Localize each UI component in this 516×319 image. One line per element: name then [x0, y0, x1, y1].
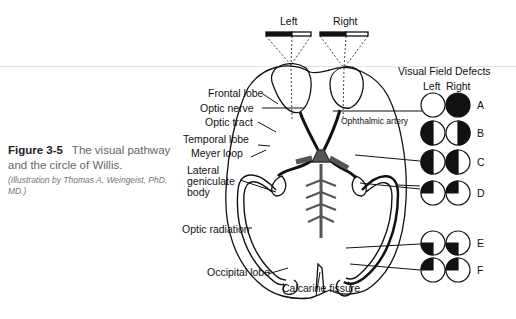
label-occipital-lobe: Occipital lobe — [207, 267, 270, 278]
right-eye-globe — [330, 67, 363, 109]
field-f-left — [421, 258, 445, 282]
left-eye-label: Left — [280, 16, 298, 27]
field-e-right — [446, 231, 470, 255]
field-b-right — [446, 121, 470, 145]
field-c-right — [446, 150, 470, 174]
visual-field-defect-grid — [421, 93, 470, 282]
field-c-left — [421, 150, 445, 174]
field-f-right — [446, 258, 470, 282]
label-optic-tract: Optic tract — [205, 117, 253, 128]
label-meyer-loop: Meyer loop — [191, 148, 243, 159]
vfd-col-left: Left — [423, 81, 441, 92]
vfd-row-a: A — [477, 100, 484, 111]
label-optic-nerve: Optic nerve — [200, 103, 254, 114]
projection-lines — [266, 36, 368, 120]
right-eye-label: Right — [333, 16, 358, 27]
label-ophthalmic-artery: Ophthalmic artery — [341, 116, 408, 127]
field-e-left — [421, 231, 445, 255]
label-frontal-lobe: Frontal lobe — [208, 88, 263, 99]
vfd-row-e: E — [477, 238, 484, 249]
label-temporal-lobe: Temporal lobe — [183, 134, 249, 145]
label-optic-radiation: Optic radiation — [182, 224, 250, 235]
field-d-left — [421, 181, 445, 205]
label-lgb-line3: body — [187, 187, 210, 198]
vfd-row-c: C — [477, 157, 485, 168]
vfd-col-right: Right — [446, 81, 471, 92]
field-d-right — [446, 181, 470, 205]
vfd-row-d: D — [477, 188, 485, 199]
right-eye-field-bar — [320, 32, 368, 36]
label-calcarine-fissure: Calcarine fissure — [282, 283, 360, 294]
field-a-right — [446, 93, 470, 117]
vfd-title: Visual Field Defects — [398, 66, 491, 77]
left-eye-field-bar — [266, 32, 311, 36]
vfd-row-f: F — [477, 265, 483, 276]
field-a-left — [421, 93, 445, 117]
vfd-row-b: B — [477, 128, 484, 139]
field-b-left — [421, 121, 445, 145]
